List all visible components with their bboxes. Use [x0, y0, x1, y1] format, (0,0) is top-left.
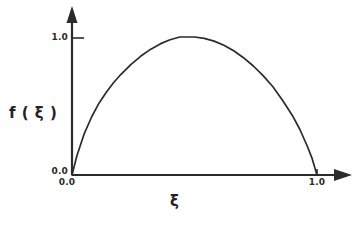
figure-canvas: 1.0 0.0 0.0 1.0 f ( ξ ) ξ [0, 0, 361, 225]
y-tick-label-0: 0.0 [28, 166, 68, 176]
x-tick-label-0: 0.0 [54, 177, 80, 187]
y-axis-title: f ( ξ ) [9, 104, 57, 122]
x-axis-title: ξ [170, 192, 179, 210]
arrow-right-icon [334, 169, 352, 181]
arrow-up-icon [67, 6, 78, 23]
y-tick-label-1: 1.0 [28, 32, 68, 42]
data-curve [72, 37, 317, 175]
x-tick-label-1: 1.0 [303, 177, 331, 187]
